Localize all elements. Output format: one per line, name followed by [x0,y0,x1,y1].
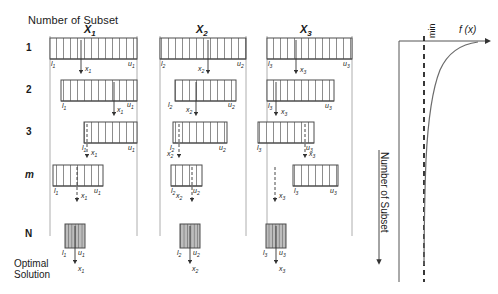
bound-lower-x2-row2-sub: 2 [170,104,173,110]
bound-lower-x3-rowm: l3 [294,187,298,196]
bound-upper-x2-row3-sub: 2 [223,147,226,153]
bound-upper-x3-rowm: u3 [330,187,337,196]
bound-upper-x1-row3-sub: 1 [132,147,135,153]
arrow-label-x1-b: x1 [117,106,123,115]
bound-upper-x3-rowm-sub: 3 [334,190,337,196]
arrow-label-x2-a: x2 [198,65,204,74]
function-label: f (x) [459,24,476,35]
final-label-x1-sub: 1 [82,268,85,274]
column-header-x1: X1 [84,23,96,38]
bound-upper-x3-row2-sub: 3 [329,105,332,111]
arrow-label-x1-b-sub: 1 [121,109,124,115]
bound-lower-x3-row2: l3 [268,102,272,111]
bound-lower-x3-rowN: l3 [263,249,267,258]
bound-upper-x2-rowm: u2 [193,187,200,196]
bound-upper-x2-row1: u2 [237,60,244,69]
arrow-label-x1-c-sub: 1 [95,152,98,158]
bound-lower-x1-row1-sub: 1 [53,63,56,69]
bound-lower-x1-row3-sub: 1 [84,147,87,153]
arrow-label-x2-d: x2 [176,192,182,201]
bound-upper-x1-rowm: u1 [94,187,101,196]
bound-upper-x1-row1: u1 [128,60,135,69]
arrow-label-x2-d-sub: 2 [180,195,183,201]
arrow-label-x1-a: x1 [85,65,91,74]
bound-lower-x1-rowN-sub: 1 [64,252,67,258]
bound-lower-x3-rowm-sub: 3 [296,190,299,196]
fx-chart [399,36,488,282]
row-label-3: 3 [26,126,32,137]
bound-lower-x3-row2-sub: 3 [270,105,273,111]
final-label-x2-sub: 2 [196,268,199,274]
bound-lower-x2-rowm-sub: 2 [173,190,176,196]
final-label-x2: x2 [192,265,198,274]
figure-canvas: Number of Subset X1 X2 X3 1 2 3 m N Opti… [0,0,498,294]
bar-x3-row1 [267,38,352,72]
arrow-label-x1-d-sub: 1 [85,195,88,201]
bound-lower-x1-row1: l1 [51,60,55,69]
bound-upper-x3-row1: u3 [343,60,350,69]
bound-lower-x2-row1: l2 [161,60,165,69]
bound-lower-x3-row1-sub: 3 [270,63,273,69]
bound-upper-x3-row1-sub: 3 [347,63,350,69]
arrow-label-x2-b: x2 [186,106,192,115]
row-label-N: N [25,228,32,239]
bound-lower-x2-rowm: l2 [171,187,175,196]
bound-upper-x1-rowm-sub: 1 [98,190,101,196]
bound-lower-x3-row3: l3 [257,144,261,153]
arrow-label-x3-b-sub: 3 [285,111,288,117]
arrow-label-x3-d-sub: 3 [283,195,286,201]
bound-upper-x3-rowN: u3 [279,249,286,258]
bound-lower-x2-row1-sub: 2 [163,63,166,69]
row-label-1: 1 [26,42,32,53]
bound-upper-x3-rowN-sub: 3 [283,252,286,258]
vertical-axis-label: Number of Subset [379,152,390,233]
bound-upper-x2-row2-sub: 2 [232,104,235,110]
arrow-label-x3-a-sub: 3 [304,69,307,75]
arrow-label-x2-b-sub: 2 [190,109,193,115]
bound-lower-x1-row3: l1 [82,144,86,153]
bound-upper-x1-row2-sub: 1 [131,104,134,110]
min-label: min [427,23,437,38]
optimal-solution-label: Optimal Solution [14,258,50,280]
bound-upper-x2-rowN: u2 [193,249,200,258]
bound-lower-x2-row2: l2 [168,101,172,110]
bound-upper-x3-row2: u3 [325,102,332,111]
arrow-label-x1-d: x1 [81,192,87,201]
bound-upper-x2-rowN-sub: 2 [197,252,200,258]
arrow-label-x3-c-sub: 3 [313,153,316,159]
row-label-m: m [25,169,34,180]
column-header-x1-sub: 1 [91,29,95,38]
final-label-x3: x3 [279,265,285,274]
bar-x1-row2 [61,80,137,114]
column-header-x2: X2 [196,23,208,38]
bound-lower-x1-rowN: l1 [62,249,66,258]
bound-upper-x2-row2: u2 [228,101,235,110]
arrow-label-x3-c: x3 [309,150,315,159]
arrow-label-x2-c: x2 [167,150,173,159]
final-label-x1: x1 [78,265,84,274]
bound-lower-x1-row2: l1 [62,102,66,111]
bound-upper-x2-row1-sub: 2 [241,63,244,69]
bound-lower-x1-row2-sub: 1 [64,105,67,111]
arrow-label-x3-b: x3 [281,108,287,117]
optimal-solution-line2: Solution [14,269,50,280]
arrow-label-x2-c-sub: 2 [171,153,174,159]
bar-x3-row2 [267,80,334,114]
bar-x2-row2 [175,80,236,114]
figure-title: Number of Subset [28,14,118,26]
bound-upper-x1-row3: u1 [128,144,135,153]
bound-lower-x2-rowN-sub: 2 [179,252,182,258]
column-header-x2-sub: 2 [203,29,207,38]
bound-upper-x1-row2: u1 [127,101,134,110]
column-header-x3: X3 [300,23,312,38]
arrow-label-x1-a-sub: 1 [89,68,92,74]
bar-x1-row1 [50,38,137,72]
row-label-2: 2 [26,84,32,95]
diagram-svg [0,0,498,294]
bound-upper-x1-row1-sub: 1 [132,63,135,69]
fx-curve [424,42,478,265]
bound-upper-x2-row3: u2 [219,144,226,153]
bound-lower-x3-rowN-sub: 3 [265,252,268,258]
arrow-label-x3-d: x3 [279,192,285,201]
arrow-label-x2-a-sub: 2 [202,68,205,74]
